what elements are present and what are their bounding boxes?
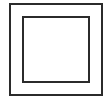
inner-square	[22, 16, 90, 83]
